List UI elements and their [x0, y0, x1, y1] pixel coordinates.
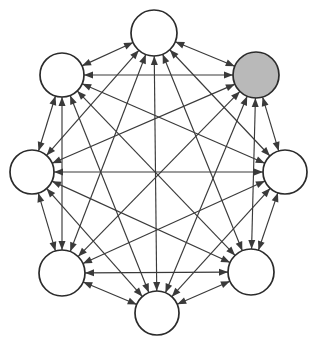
- edge-arrowhead: [248, 240, 255, 249]
- graph-edge: [175, 42, 234, 66]
- edge-arrowhead: [83, 282, 93, 289]
- edge-arrowhead: [59, 97, 66, 106]
- edge-arrowhead: [219, 269, 228, 276]
- graph-node-bottom[interactable]: [135, 291, 179, 335]
- edge-arrowhead: [139, 54, 146, 64]
- edge-arrowhead: [54, 169, 63, 176]
- edge-arrowhead: [37, 193, 44, 203]
- graph-node-bottom-left[interactable]: [39, 250, 85, 296]
- graph-edge: [38, 193, 55, 251]
- edge-arrowhead: [252, 98, 259, 107]
- edge-arrowhead: [85, 269, 94, 276]
- graph-edge: [258, 193, 278, 250]
- edge-arrowhead: [175, 42, 185, 49]
- edge-arrowhead: [273, 141, 280, 151]
- graph-edge: [85, 272, 228, 273]
- graph-edge: [83, 181, 265, 263]
- edge-arrowhead: [220, 281, 230, 288]
- graph-edge: [78, 91, 240, 256]
- edge-arrowhead: [123, 43, 133, 50]
- graph-diagram-canvas: [0, 0, 317, 341]
- edge-arrowhead: [49, 96, 56, 106]
- edge-arrowhead: [151, 56, 158, 65]
- edge-arrowhead: [82, 59, 92, 66]
- edge-arrowhead: [83, 257, 93, 264]
- edge-arrowhead: [240, 96, 247, 106]
- edge-arrowhead: [225, 84, 235, 91]
- edge-arrowhead: [82, 84, 92, 91]
- edge-arrowhead: [236, 241, 243, 251]
- edge-arrowhead: [52, 156, 62, 163]
- graph-node-top-right-shaded[interactable]: [233, 52, 279, 98]
- graph-node-top[interactable]: [131, 10, 177, 56]
- edge-arrowhead: [52, 181, 62, 188]
- edge-arrowhead: [50, 241, 57, 251]
- graph-svg: [0, 0, 317, 341]
- edge-arrowhead: [254, 169, 263, 176]
- edge-arrowhead: [177, 297, 187, 304]
- edge-arrowhead: [225, 60, 235, 67]
- edge-arrowhead: [127, 298, 137, 305]
- edge-arrowhead: [38, 141, 45, 151]
- edge-arrowhead: [142, 283, 149, 293]
- edge-arrowhead: [220, 256, 230, 263]
- edge-arrowhead: [255, 156, 265, 163]
- edge-arrowhead: [165, 283, 172, 293]
- edge-arrowhead: [224, 72, 233, 79]
- edge-arrowhead: [70, 242, 77, 252]
- edge-arrowhead: [59, 241, 66, 250]
- graph-node-top-left[interactable]: [40, 53, 84, 97]
- edge-arrowhead: [258, 241, 265, 251]
- edge-arrowhead: [84, 72, 93, 79]
- edge-arrowhead: [70, 95, 77, 105]
- graph-node-right[interactable]: [263, 150, 307, 194]
- graph-node-left[interactable]: [10, 150, 54, 194]
- graph-node-bottom-right[interactable]: [228, 249, 274, 295]
- edge-arrowhead: [163, 54, 170, 64]
- edge-arrowhead: [153, 282, 160, 291]
- edge-arrowhead: [255, 181, 265, 188]
- edge-arrowhead: [262, 97, 269, 107]
- edge-arrowhead: [272, 193, 279, 203]
